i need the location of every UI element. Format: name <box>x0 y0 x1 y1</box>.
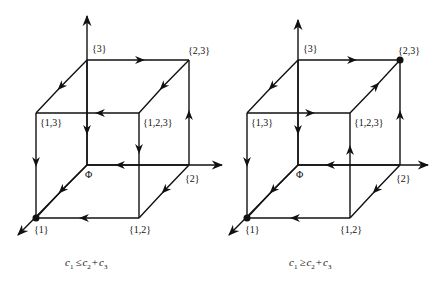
vertex-label-phi: Φ <box>85 169 92 180</box>
vertex-label-12: {1,2} <box>340 224 362 235</box>
vertex-label-1: {1} <box>34 224 49 235</box>
vertex-label-23: {2,3} <box>188 45 210 56</box>
marked-vertex-dot <box>33 215 40 222</box>
edge-23-to-123 <box>139 60 189 113</box>
vertex-label-3: {3} <box>303 43 318 54</box>
vertex-label-13: {1,3} <box>251 117 273 128</box>
marked-vertex-dot-1 <box>244 215 251 222</box>
cube-right: {3} {2,3} {1,3} {1,2,3} Φ {2} {1} {1,2} … <box>229 20 428 271</box>
vertex-label-2: {2} <box>185 173 200 184</box>
marked-vertex-dot-23 <box>397 57 404 64</box>
vertex-label-12: {1,2} <box>129 224 151 235</box>
vertex-label-2: {2} <box>396 173 411 184</box>
edge-123-to-23 <box>350 60 400 113</box>
edge-2-to-12 <box>139 165 189 218</box>
cube-left: {3} {2,3} {1,3} {1,2,3} Φ {2} {1} {1,2} … <box>18 16 222 271</box>
edge-3-to-13 <box>36 60 87 113</box>
edge-2-to-12 <box>350 165 400 218</box>
caption-right: c1≥c2+c3 <box>289 256 332 271</box>
edge-3-to-13 <box>247 60 298 113</box>
diagram-canvas: {3} {2,3} {1,3} {1,2,3} Φ {2} {1} {1,2} … <box>0 0 445 281</box>
vertex-label-123: {1,2,3} <box>354 117 384 128</box>
vertex-label-phi: Φ <box>296 169 303 180</box>
vertex-label-23: {2,3} <box>398 45 420 56</box>
edge-phi-to-1 <box>247 165 298 218</box>
vertex-label-3: {3} <box>92 43 107 54</box>
edge-phi-to-1 <box>36 165 87 218</box>
vertex-label-13: {1,3} <box>40 117 62 128</box>
vertex-label-1: {1} <box>245 224 260 235</box>
vertex-label-123: {1,2,3} <box>143 117 173 128</box>
caption-left: c1≤c2+c3 <box>65 256 108 271</box>
